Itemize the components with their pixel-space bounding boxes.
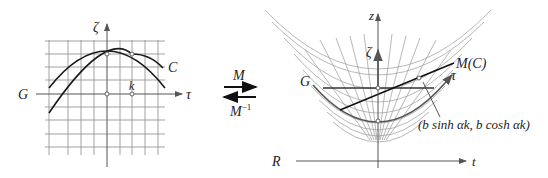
forward-map-label: M: [232, 68, 246, 83]
left-axes: [36, 24, 182, 167]
zeta-label: ζ: [366, 45, 373, 60]
left-g-label: G: [18, 87, 28, 102]
z-axis-label: z: [368, 8, 374, 23]
left-c-label: C: [168, 60, 178, 75]
right-g-label: G: [300, 74, 310, 89]
point-annotation: (b sinh αk, b cosh αk): [418, 117, 530, 132]
diagram-canvas: G C k τ ζ M M−1: [0, 0, 548, 178]
left-tau-label: τ: [186, 87, 192, 102]
left-k-label: k: [129, 79, 135, 93]
left-zeta-label: ζ: [93, 20, 100, 35]
transform-arrows: [224, 87, 256, 97]
r-axis-label: R: [271, 154, 281, 169]
curve-c: [49, 49, 163, 113]
t-axis-label: t: [472, 154, 476, 169]
inverse-map-label: M−1: [229, 102, 251, 119]
m-of-c-label: M(C): [455, 56, 487, 72]
